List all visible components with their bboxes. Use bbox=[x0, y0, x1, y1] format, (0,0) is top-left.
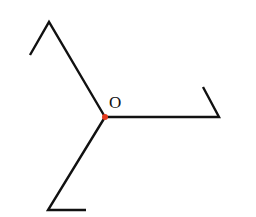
center-label: O bbox=[109, 93, 121, 112]
ray-lower-left bbox=[48, 117, 105, 210]
ray-upper-left bbox=[30, 22, 105, 117]
ray-right bbox=[105, 87, 219, 117]
center-point bbox=[102, 114, 108, 120]
diagram-canvas: O bbox=[0, 0, 256, 217]
